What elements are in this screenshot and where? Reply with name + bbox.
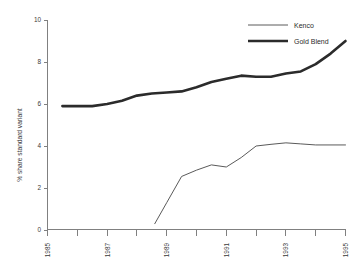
y-axis-ticks	[44, 20, 48, 230]
y-tick-label: 10	[34, 16, 42, 23]
y-tick-label: 4	[37, 142, 41, 149]
x-tick-label: 1987	[104, 243, 111, 258]
y-axis-title: % share standard variant	[16, 108, 23, 181]
series-line-kenco	[155, 143, 346, 224]
x-axis-tick-labels: 1985 1987 1989 1991 1993 1995	[44, 243, 349, 258]
y-tick-label: 2	[37, 184, 41, 191]
legend-label-kenco: Kenco	[294, 22, 314, 29]
x-tick-label: 1985	[44, 243, 51, 258]
y-tick-label: 6	[37, 100, 41, 107]
x-tick-label: 1995	[342, 243, 349, 258]
y-tick-label: 0	[37, 226, 41, 233]
x-tick-label: 1993	[282, 243, 289, 258]
x-axis-ticks	[48, 230, 346, 236]
y-tick-label: 8	[37, 58, 41, 65]
chart-legend: Kenco Gold Blend	[248, 22, 329, 45]
series-line-gold-blend	[62, 41, 345, 106]
legend-label-gold-blend: Gold Blend	[294, 38, 329, 45]
x-tick-label: 1989	[163, 243, 170, 258]
x-tick-label: 1991	[223, 243, 230, 258]
chart-canvas: 0 2 4 6 8 10 % share standard variant 19…	[0, 0, 359, 277]
line-chart: 0 2 4 6 8 10 % share standard variant 19…	[0, 0, 359, 277]
y-axis-tick-labels: 0 2 4 6 8 10	[34, 16, 42, 233]
